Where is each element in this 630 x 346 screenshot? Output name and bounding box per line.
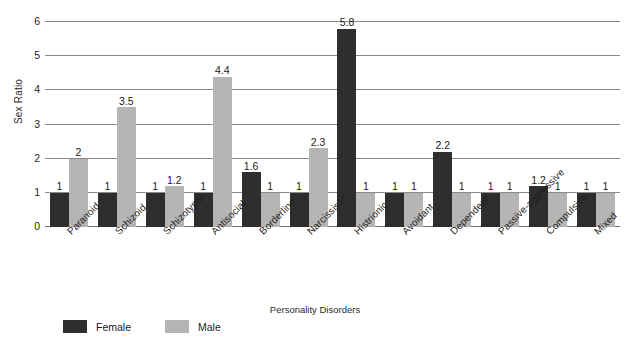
- bar-female[interactable]: 1.6: [242, 172, 261, 227]
- bar-value-label: 1: [152, 181, 158, 192]
- y-tick-label-2: 2: [34, 152, 40, 163]
- bar-value-label: 1: [104, 181, 110, 192]
- bar-value-label: 1: [584, 181, 590, 192]
- bar-value-label: 2.3: [311, 137, 326, 148]
- bar-value-label: 1: [57, 181, 63, 192]
- bar-male[interactable]: 4.4: [213, 77, 232, 227]
- bar-value-label: 1: [392, 181, 398, 192]
- bar-value-label: 2.2: [435, 140, 450, 151]
- legend-swatch-male: [165, 320, 189, 333]
- y-tick-label-5: 5: [34, 50, 40, 61]
- legend-item-male[interactable]: Male: [165, 320, 221, 333]
- bar-value-label: 1: [507, 181, 513, 192]
- x-axis-tick-labels: ParanoidSchizoidSchizotypalAntisocialBor…: [45, 229, 620, 299]
- bar-value-label: 1: [488, 181, 494, 192]
- bar-value-label: 1: [267, 181, 273, 192]
- y-tick-label-3: 3: [34, 118, 40, 129]
- legend-label-female: Female: [96, 321, 131, 333]
- legend-item-female[interactable]: Female: [63, 320, 131, 333]
- bar-value-label: 5.8: [340, 17, 355, 28]
- bar-value-label: 3.5: [119, 96, 134, 107]
- y-tick-label-6: 6: [34, 16, 40, 27]
- y-tick-label-1: 1: [34, 187, 40, 198]
- bar-value-label: 1: [603, 181, 609, 192]
- bar-value-label: 1: [363, 181, 369, 192]
- bar-value-label: 4.4: [215, 65, 230, 76]
- bar-value-label: 1: [411, 181, 417, 192]
- bar-female[interactable]: 1: [50, 193, 69, 227]
- bar-group: 12.3: [290, 22, 328, 227]
- bar-group: 11: [385, 22, 423, 227]
- bar-female[interactable]: 1: [98, 193, 117, 227]
- legend-swatch-female: [63, 320, 87, 333]
- bar-value-label: 1: [200, 181, 206, 192]
- legend-label-male: Male: [198, 321, 221, 333]
- bar-group: 2.21: [433, 22, 471, 227]
- bar-female[interactable]: 1: [146, 193, 165, 227]
- y-tick-label-0: 0: [34, 221, 40, 232]
- y-axis-title: Sex Ratio: [13, 52, 24, 152]
- bar-value-label: 1: [459, 181, 465, 192]
- bar-group: 13.5: [98, 22, 136, 227]
- bar-group: 11.2: [146, 22, 184, 227]
- bar-group: 1.61: [242, 22, 280, 227]
- bar-female[interactable]: 1: [385, 193, 404, 227]
- bar-value-label: 1.6: [244, 161, 259, 172]
- bar-value-label: 2: [76, 147, 82, 158]
- bar-group: 12: [50, 22, 88, 227]
- x-axis-title: Personality Disorders: [0, 304, 630, 315]
- sex-ratio-bar-chart: Sex Ratio 0123456 1213.511.214.41.6112.3…: [0, 0, 630, 346]
- bar-female[interactable]: 2.2: [433, 152, 452, 227]
- bar-value-label: 1.2: [167, 175, 182, 186]
- chart-legend: FemaleMale: [63, 320, 221, 333]
- y-tick-label-4: 4: [34, 84, 40, 95]
- bar-value-label: 1: [296, 181, 302, 192]
